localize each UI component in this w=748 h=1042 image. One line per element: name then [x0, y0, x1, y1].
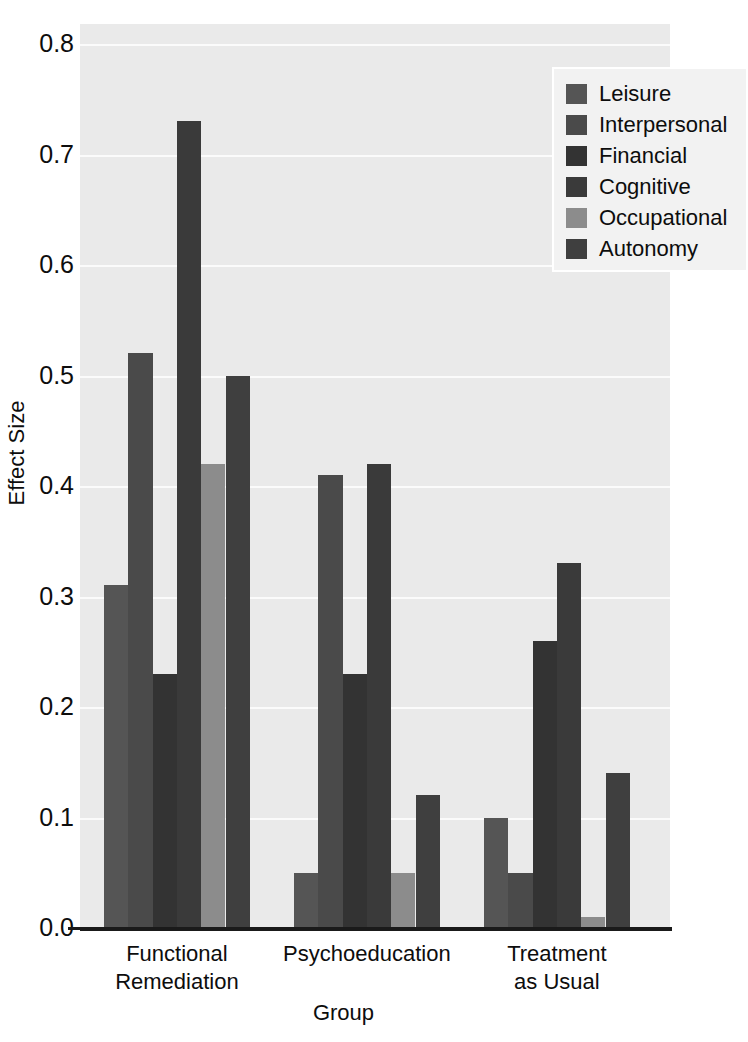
bar	[508, 873, 532, 928]
legend-item-label: Leisure	[599, 83, 671, 105]
legend-item-label: Financial	[599, 145, 687, 167]
gridline	[80, 376, 670, 378]
y-axis-tick-label: 0.2	[12, 694, 74, 719]
legend-item-cognitive[interactable]: Cognitive	[566, 171, 746, 202]
legend-item-autonomy[interactable]: Autonomy	[566, 233, 746, 264]
x-axis-group-label-line: Treatment	[442, 940, 672, 968]
bar	[226, 376, 250, 929]
legend-swatch-icon	[566, 239, 587, 259]
bar	[128, 353, 152, 928]
bar	[343, 674, 367, 928]
y-axis-tick-label: 0.3	[12, 584, 74, 609]
bar	[201, 464, 225, 928]
legend-swatch-icon	[566, 146, 587, 166]
bar	[484, 818, 508, 929]
bar	[416, 795, 440, 928]
legend-swatch-icon	[566, 84, 587, 104]
legend-item-label: Interpersonal	[599, 114, 727, 136]
x-axis-line	[80, 927, 672, 931]
x-axis-group-label-line: Remediation	[62, 968, 292, 996]
bar	[153, 674, 177, 928]
x-axis-title: Group	[0, 1000, 687, 1026]
legend-swatch-icon	[566, 115, 587, 135]
legend-item-leisure[interactable]: Leisure	[566, 78, 746, 109]
bar	[533, 641, 557, 928]
gridline	[80, 44, 670, 46]
plot-area: LeisureInterpersonalFinancialCognitiveOc…	[80, 24, 670, 928]
y-axis-tick-label: 0.0	[12, 915, 74, 940]
legend-item-occupational[interactable]: Occupational	[566, 202, 746, 233]
bar	[318, 475, 342, 928]
bar	[177, 121, 201, 928]
y-axis-title: Effect Size	[4, 353, 30, 553]
y-axis-tick-label: 0.8	[12, 31, 74, 56]
x-axis-group-label-line: as Usual	[442, 968, 672, 996]
legend-item-label: Autonomy	[599, 238, 698, 260]
bar	[367, 464, 391, 928]
legend-item-label: Cognitive	[599, 176, 691, 198]
y-axis-tick-label: 0.7	[12, 142, 74, 167]
bar	[104, 585, 128, 928]
legend-item-label: Occupational	[599, 207, 727, 229]
bar	[557, 563, 581, 928]
y-axis-tick-label: 0.1	[12, 805, 74, 830]
legend: LeisureInterpersonalFinancialCognitiveOc…	[552, 67, 748, 272]
legend-swatch-icon	[566, 177, 587, 197]
legend-item-interpersonal[interactable]: Interpersonal	[566, 109, 746, 140]
y-axis-tick-label: 0.6	[12, 252, 74, 277]
bar	[391, 873, 415, 928]
legend-swatch-icon	[566, 208, 587, 228]
legend-item-financial[interactable]: Financial	[566, 140, 746, 171]
bar	[606, 773, 630, 928]
y-axis-zero-tick	[68, 927, 81, 930]
bar	[294, 873, 318, 928]
x-axis-group-label: Treatmentas Usual	[442, 940, 672, 995]
